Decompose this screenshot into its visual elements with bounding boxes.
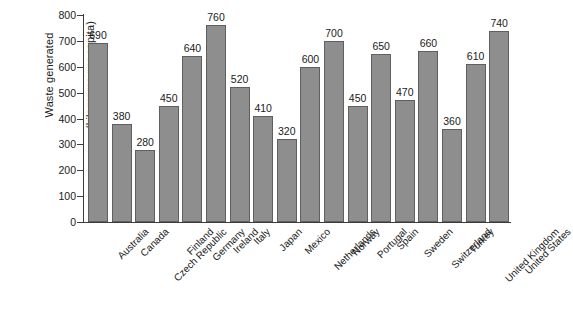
bar-value-label: 410 <box>243 103 283 114</box>
bar <box>88 43 108 222</box>
y-axis-tick-mark <box>77 15 83 16</box>
bar <box>442 129 462 222</box>
y-axis-tick-mark <box>77 144 83 145</box>
x-axis-category-label: Japan <box>277 226 304 253</box>
y-axis-tick-mark <box>77 170 83 171</box>
bar <box>206 25 226 222</box>
bar <box>348 106 368 222</box>
bar <box>489 31 509 222</box>
y-axis-tick-mark <box>77 67 83 68</box>
y-axis-tick-label: 200 <box>46 165 76 176</box>
bar <box>466 64 486 222</box>
bar-value-label: 690 <box>78 30 118 41</box>
y-axis-tick-labels: 8007006005004003002001000 <box>44 0 76 310</box>
bar <box>418 51 438 222</box>
y-axis-tick-label: 800 <box>46 10 76 21</box>
bar-value-label: 650 <box>361 41 401 52</box>
y-axis-tick-label: 0 <box>46 217 76 228</box>
bar <box>300 67 320 222</box>
y-axis-line <box>83 14 84 223</box>
y-axis-tick-mark <box>77 93 83 94</box>
bar-value-label: 760 <box>196 12 236 23</box>
y-axis-tick-mark <box>77 41 83 42</box>
y-axis-tick-mark <box>77 222 83 223</box>
bar <box>324 41 344 222</box>
bar <box>371 54 391 222</box>
bar <box>277 139 297 222</box>
y-axis-tick-label: 300 <box>46 139 76 150</box>
y-axis-tick-label: 500 <box>46 88 76 99</box>
bar <box>159 106 179 222</box>
bar-value-label: 520 <box>220 74 260 85</box>
y-axis-tick-label: 100 <box>46 191 76 202</box>
x-axis-category-label: Sweden <box>421 226 454 259</box>
bar <box>395 100 415 222</box>
x-axis-category-label: United Kingdom <box>502 226 560 284</box>
x-axis-line <box>83 222 511 223</box>
bar <box>182 56 202 222</box>
bar-value-label: 380 <box>102 111 142 122</box>
y-axis-tick-mark <box>77 196 83 197</box>
x-axis-category-label: Mexico <box>302 226 332 256</box>
y-axis-tick-label: 600 <box>46 62 76 73</box>
y-axis-tick-label: 700 <box>46 36 76 47</box>
bar-value-label: 700 <box>314 28 354 39</box>
y-axis-tick-mark <box>77 119 83 120</box>
bar-value-label: 740 <box>479 18 519 29</box>
bar-value-label: 660 <box>408 38 448 49</box>
bar <box>135 150 155 222</box>
y-axis-tick-label: 400 <box>46 114 76 125</box>
